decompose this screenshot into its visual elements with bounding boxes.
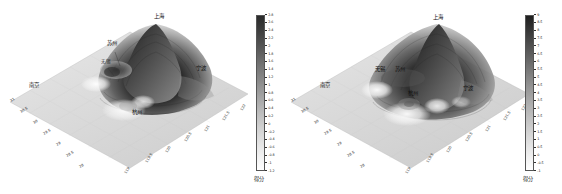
colorbar-tick: 2.6: [268, 20, 273, 24]
colorbar-tick: 0.2: [268, 114, 273, 118]
city-label: 杭州: [408, 91, 418, 96]
colorbar-tick: 6.5: [537, 52, 542, 56]
colorbar-tick: 1.5: [537, 130, 542, 134]
colorbar-tick: 0.8: [268, 91, 273, 95]
colorbar-title: 得分: [254, 177, 264, 182]
colorbar-tick: 1.2: [268, 75, 273, 79]
colorbar-tick: -1: [268, 161, 271, 165]
colorbar-tick: 3: [537, 106, 539, 110]
colorbar-gradient: [256, 15, 265, 171]
colorbar-tick-list: 9 8.5 8 7.5 7 6.5 6 5.5 5 4.5 4 3.5 3 2.…: [534, 15, 560, 171]
city-label: 宁波: [196, 66, 206, 71]
colorbar-tick: 9: [537, 13, 539, 17]
surface-svg-right: [285, 6, 535, 188]
colorbar-left: 2.8 2.6 2.4 2.2 2 1.8 1.6 1.4 1.2 1 0.8 …: [256, 15, 282, 171]
colorbar-tick: 6: [537, 59, 539, 63]
colorbar-tick: 3.5: [537, 98, 542, 102]
colorbar-tick: -1.2: [268, 169, 274, 173]
city-label: 上海: [433, 15, 443, 20]
colorbar-tick: 0: [537, 153, 539, 157]
city-label: 南京: [29, 83, 39, 88]
colorbar-tick: 0.5: [537, 145, 542, 149]
colorbar-tick: -0.4: [268, 137, 274, 141]
colorbar-tick: 7.5: [537, 36, 542, 40]
colorbar-tick: 0.6: [268, 98, 273, 102]
surface-mesh-right: [285, 6, 535, 188]
colorbar-title: 得分: [523, 177, 533, 182]
city-label: 宁波: [463, 86, 473, 91]
colorbar-tick: 1.8: [268, 52, 273, 56]
chart-panel-left: 上海 苏州 无锡 宁波 南京 杭州 31 30.5 30 29.5 29 28.…: [0, 0, 281, 194]
colorbar-tick: -0.8: [268, 153, 274, 157]
colorbar-tick: -1: [537, 169, 540, 173]
colorbar-tick: 1: [537, 137, 539, 141]
city-label: 上海: [154, 14, 164, 19]
city-label: 苏州: [107, 41, 117, 46]
city-label: 无锡: [101, 60, 111, 65]
city-label: 无锡: [375, 67, 385, 72]
colorbar-tick: 2.2: [268, 36, 273, 40]
colorbar-tick: 2.4: [268, 28, 273, 32]
colorbar-tick: 0: [268, 122, 270, 126]
city-label: 南京: [320, 83, 330, 88]
chart-panel-right: 上海 无锡 苏州 南京 宁波 杭州 31 30.5 30 29.5 29 28.…: [281, 0, 562, 194]
surface-plot-right: 上海 无锡 苏州 南京 宁波 杭州 31 30.5 30 29.5 29 28.…: [285, 6, 535, 188]
colorbar-tick: 2: [537, 122, 539, 126]
surface-mesh-left: [4, 6, 254, 188]
colorbar-tick: 2.5: [537, 114, 542, 118]
colorbar-tick: 0.4: [268, 106, 273, 110]
colorbar-tick: 4.5: [537, 83, 542, 87]
surface-svg-left: [4, 6, 254, 188]
colorbar-tick: 5.5: [537, 67, 542, 71]
figure-container: 上海 苏州 无锡 宁波 南京 杭州 31 30.5 30 29.5 29 28.…: [0, 0, 562, 194]
colorbar-tick: 1: [268, 83, 270, 87]
colorbar-tick: 1.6: [268, 59, 273, 63]
colorbar-tick: 1.4: [268, 67, 273, 71]
surface-plot-left: 上海 苏州 无锡 宁波 南京 杭州 31 30.5 30 29.5 29 28.…: [4, 6, 254, 188]
colorbar-tick: -0.5: [537, 161, 543, 165]
colorbar-tick: -0.2: [268, 130, 274, 134]
colorbar-tick: 8: [537, 28, 539, 32]
colorbar-tick: 8.5: [537, 20, 542, 24]
city-label: 杭州: [132, 110, 142, 115]
colorbar-tick: -0.6: [268, 145, 274, 149]
colorbar-right: 9 8.5 8 7.5 7 6.5 6 5.5 5 4.5 4 3.5 3 2.…: [525, 15, 551, 171]
colorbar-tick: 7: [537, 44, 539, 48]
colorbar-tick: 4: [537, 91, 539, 95]
colorbar-tick: 2: [268, 44, 270, 48]
colorbar-tick: 2.8: [268, 13, 273, 17]
city-label: 苏州: [395, 67, 405, 72]
colorbar-tick: 5: [537, 75, 539, 79]
colorbar-gradient: [525, 15, 534, 171]
